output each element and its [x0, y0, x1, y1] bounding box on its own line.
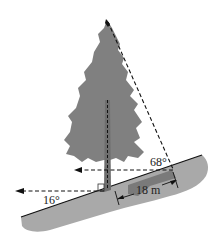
- upper-arrowhead-icon: [74, 167, 82, 173]
- angle-label-68: 68°: [150, 155, 167, 169]
- tree-slope-diagram: 68° 16° 18 m: [0, 0, 224, 249]
- lower-arrowhead-icon: [15, 188, 24, 194]
- tree-foliage: [64, 20, 144, 162]
- distance-label: 18 m: [136, 183, 161, 197]
- angle-label-16: 16°: [43, 193, 60, 207]
